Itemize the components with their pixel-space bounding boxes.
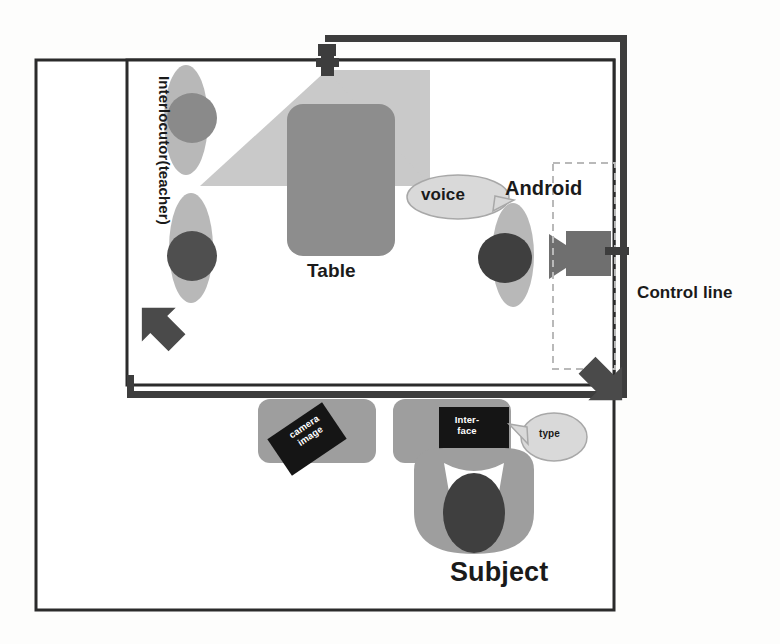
label-interface: Inter- face [446, 414, 488, 436]
label-interlocutor: Interlocutor(teacher) [156, 76, 173, 225]
diagram-canvas: Interlocutor(teacher) Table voice Androi… [0, 0, 780, 644]
label-type: type [539, 428, 560, 439]
table-shape [287, 104, 395, 256]
label-control-line: Control line [637, 283, 733, 303]
label-interface-line1: Inter- [455, 414, 479, 425]
label-subject: Subject [450, 557, 548, 588]
label-interface-line2: face [457, 425, 476, 436]
label-table: Table [307, 260, 356, 282]
android-head [478, 233, 532, 283]
subject-figure [414, 448, 534, 554]
label-voice: voice [421, 185, 465, 205]
android-camera-body-icon [566, 231, 611, 276]
diagram-svg [0, 0, 780, 644]
interlocutor-bottom-head [167, 231, 217, 281]
label-android: Android [505, 177, 582, 200]
interlocutor-top-head [167, 93, 217, 143]
